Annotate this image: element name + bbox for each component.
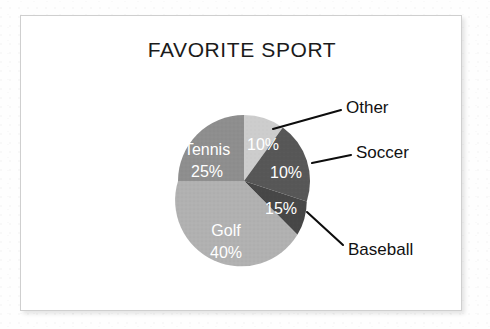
pie-label-tennis-value: 25% [191,163,223,180]
pie-callout-soccer: Soccer [356,143,409,162]
pie-label-golf-value: 40% [210,244,242,261]
leader-line-soccer [312,155,351,163]
pie-chart-svg: 10% 10% 15% Golf 40% Tennis 25% Other So… [21,16,463,312]
pie-label-soccer-value: 10% [270,164,302,181]
pie-label-baseball-value: 15% [265,200,297,217]
chart-card: FAVORITE SPORT [20,15,462,311]
pie-chart-plot-area: 10% 10% 15% Golf 40% Tennis 25% Other So… [21,16,463,312]
leader-line-other [273,110,341,129]
pie-label-tennis-name: Tennis [184,141,230,158]
chart-page: FAVORITE SPORT [0,0,490,329]
pie-callout-other: Other [346,98,389,117]
pie-label-other-value: 10% [247,136,279,153]
pie-label-golf-name: Golf [211,222,241,239]
leader-line-baseball [307,212,343,245]
pie-callout-baseball: Baseball [348,240,413,259]
